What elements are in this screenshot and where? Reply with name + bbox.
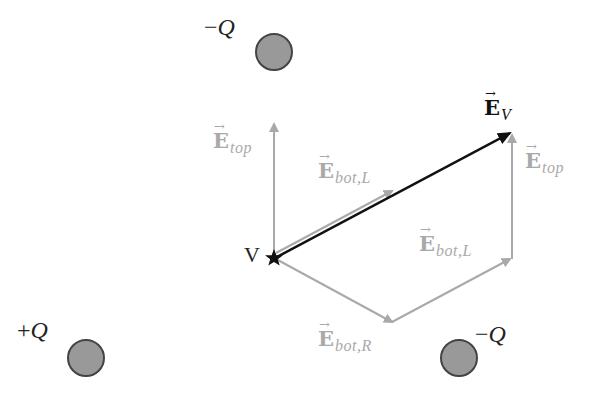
label-e-v-net: →EV: [484, 97, 511, 118]
label-e-bot-l-chain: →Ebot,L: [419, 233, 472, 254]
charge-bottom-left-positive: [68, 340, 104, 376]
label-e-bot-r: →Ebot,R: [318, 328, 372, 349]
charge-top-negative: [256, 34, 292, 70]
point-v-label: V: [244, 244, 260, 266]
diagram-canvas: [0, 0, 599, 399]
label-e-top-chain: →Etop: [525, 150, 564, 171]
charge-bottom-left-label: +Q: [17, 318, 48, 342]
vector-e-bot-l-at-v: [276, 191, 392, 253]
charge-bottom-right-negative: [441, 340, 477, 376]
vector-e-bot-l-chain: [392, 259, 510, 322]
charge-top-label: −Q: [204, 15, 235, 39]
vector-e-v-net: [275, 133, 510, 258]
charge-bottom-right-label: −Q: [475, 322, 506, 346]
label-e-bot-l-at-v: →Ebot,L: [318, 160, 371, 181]
label-e-top-at-v: →Etop: [213, 130, 252, 151]
vector-e-bot-r: [276, 259, 392, 322]
